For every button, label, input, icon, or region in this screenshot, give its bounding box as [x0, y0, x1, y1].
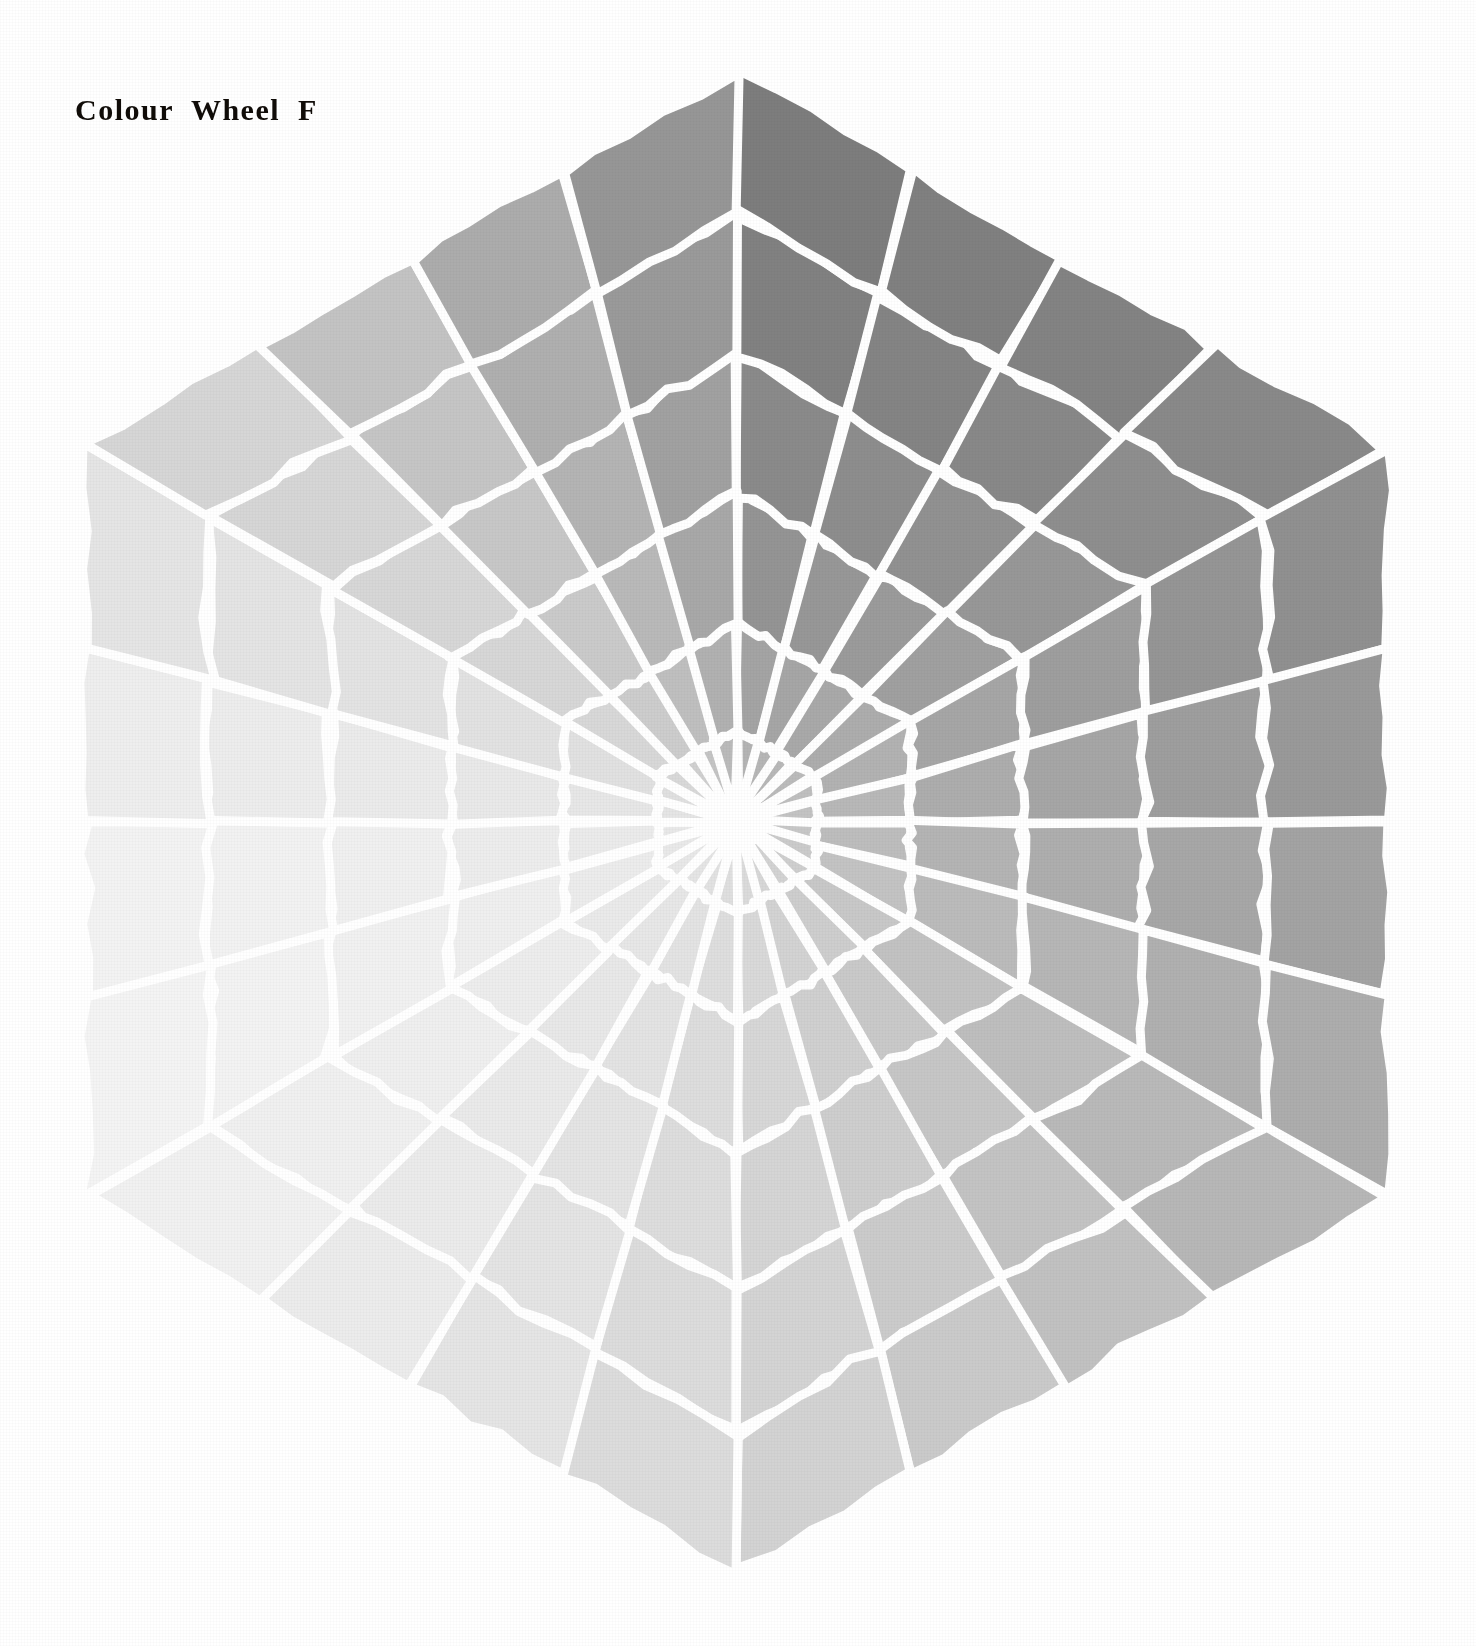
wheel-cell: [1261, 648, 1392, 822]
wheel-cell: [80, 822, 214, 997]
colour-wheel-figure: [0, 0, 1476, 1646]
plate-page: Colour Wheel F: [0, 0, 1476, 1646]
